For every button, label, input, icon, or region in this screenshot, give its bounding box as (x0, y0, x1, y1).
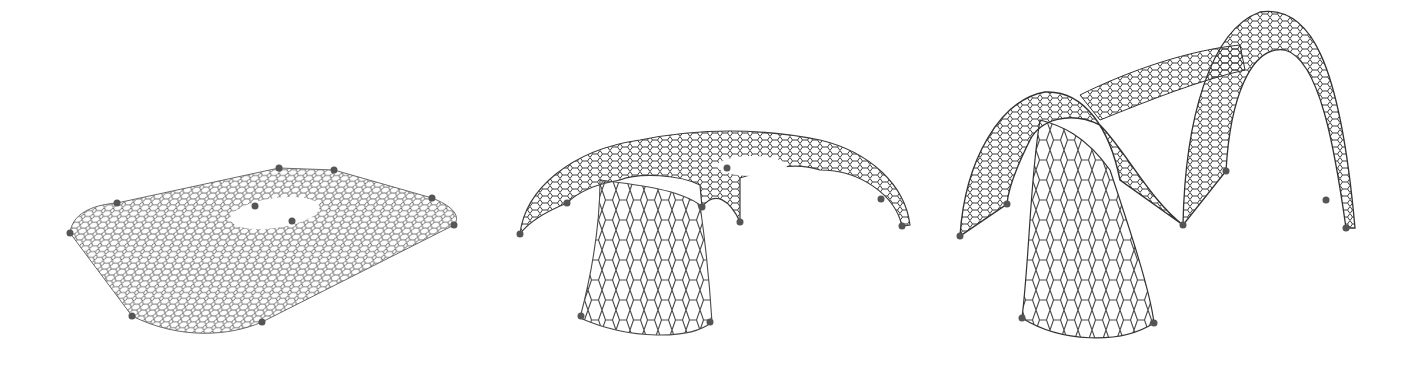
flat-mesh-surface (70, 168, 457, 333)
anchor-points (957, 168, 1350, 327)
double-arch-illustration (940, 0, 1405, 366)
front-support (1022, 120, 1154, 338)
single-dome-illustration (480, 0, 940, 366)
single-dome-figure (480, 0, 940, 366)
double-arch-figure (940, 0, 1405, 366)
back-arch (1183, 11, 1355, 228)
support-stem (580, 180, 712, 335)
canopy-surface (520, 131, 910, 234)
flat-mesh-illustration (0, 0, 480, 366)
flat-mesh-figure (0, 0, 480, 366)
